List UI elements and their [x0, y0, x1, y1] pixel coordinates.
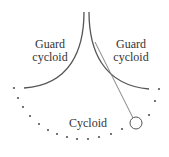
cycloid-dot: [22, 106, 24, 108]
cycloid-dot: [76, 138, 78, 140]
cycloid-dot: [87, 138, 89, 140]
left-guard-label: Guard cycloid: [30, 38, 70, 64]
cycloid-dot: [38, 123, 40, 125]
cycloid-dot: [17, 97, 19, 99]
cycloid-dot: [13, 87, 15, 89]
cycloid-pendulum-diagram: [0, 0, 169, 157]
pendulum-bob: [130, 117, 142, 129]
cycloid-dot: [110, 133, 112, 135]
cycloid-dot: [66, 136, 68, 138]
cycloid-label: Cycloid: [66, 117, 110, 130]
cycloid-dot: [47, 129, 49, 131]
cycloid-dot: [154, 100, 156, 102]
cycloid-dot: [29, 115, 31, 117]
right-guard-label-line2: cycloid: [111, 51, 151, 64]
cycloid-dot: [56, 133, 58, 135]
cycloid-dot: [98, 136, 100, 138]
cycloid-dot: [148, 114, 150, 116]
right-guard-label: Guard cycloid: [111, 38, 151, 64]
left-guard-label-line2: cycloid: [30, 51, 70, 64]
cycloid-dotted-path: [13, 87, 160, 140]
cycloid-dot: [121, 128, 123, 130]
cycloid-dot: [158, 88, 160, 90]
